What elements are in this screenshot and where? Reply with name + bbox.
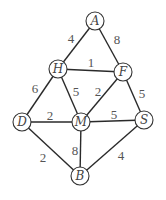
node-label: B (75, 169, 85, 183)
node-a: A (86, 12, 104, 30)
edge-weight-h-m: 5 (73, 84, 80, 99)
edge-weight-h-d: 6 (32, 81, 39, 96)
node-f: F (114, 63, 132, 81)
edge-weight-m-b: 8 (72, 143, 79, 158)
node-label: M (74, 115, 88, 129)
edge-weight-h-f: 1 (88, 55, 95, 70)
node-b: B (71, 167, 89, 185)
node-m: M (72, 113, 90, 131)
edge-weight-d-m: 2 (47, 108, 54, 123)
weighted-graph-diagram: 481652525284 AHFDMSB (0, 0, 166, 200)
edge-weight-d-b: 2 (40, 150, 47, 165)
edge-weight-f-m: 2 (95, 84, 102, 99)
edge-weight-m-s: 5 (111, 107, 118, 122)
edge-weight-a-h: 4 (68, 31, 75, 46)
node-label: S (140, 113, 148, 127)
node-label: D (16, 115, 27, 129)
edge-weights-layer: 481652525284 (32, 31, 146, 165)
edge-weight-a-f: 8 (114, 32, 121, 47)
node-label: F (118, 65, 128, 79)
node-label: A (90, 14, 100, 28)
edge-weight-s-b: 4 (118, 148, 125, 163)
node-label: H (52, 62, 64, 76)
edge-s-b (80, 120, 144, 176)
node-d: D (13, 113, 31, 131)
node-s: S (135, 111, 153, 129)
nodes-layer: AHFDMSB (13, 12, 153, 185)
edge-weight-f-s: 5 (139, 86, 146, 101)
node-h: H (49, 60, 67, 78)
